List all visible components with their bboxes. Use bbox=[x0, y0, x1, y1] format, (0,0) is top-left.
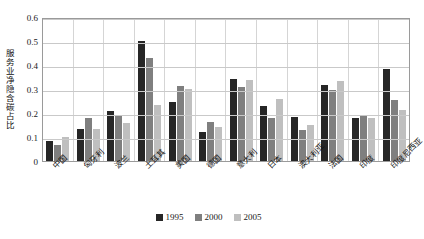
y-tick-label: 0.3 bbox=[27, 86, 38, 95]
legend-label: 1995 bbox=[166, 212, 184, 222]
bar[interactable] bbox=[177, 86, 184, 161]
legend-label: 2000 bbox=[205, 212, 223, 222]
gridline bbox=[43, 19, 409, 20]
gridline bbox=[43, 43, 409, 44]
gridline bbox=[43, 115, 409, 116]
bar[interactable] bbox=[138, 41, 145, 161]
y-tick-label: 0.5 bbox=[27, 38, 38, 47]
plot-area bbox=[42, 18, 410, 162]
gridline bbox=[43, 67, 409, 68]
bar[interactable] bbox=[391, 100, 398, 161]
bar[interactable] bbox=[199, 132, 206, 161]
y-tick-label: 0.2 bbox=[27, 110, 38, 119]
y-axis-tick-labels: 00.10.20.30.40.50.6 bbox=[14, 14, 40, 166]
bar[interactable] bbox=[337, 81, 344, 161]
bar[interactable] bbox=[238, 87, 245, 161]
chart-legend: 199520002005 bbox=[0, 212, 417, 222]
legend-item-1995[interactable]: 1995 bbox=[156, 212, 184, 222]
bar[interactable] bbox=[329, 90, 336, 161]
legend-swatch bbox=[156, 214, 163, 221]
legend-label: 2005 bbox=[244, 212, 262, 222]
gridline bbox=[43, 91, 409, 92]
bar[interactable] bbox=[276, 99, 283, 161]
bar[interactable] bbox=[46, 141, 53, 161]
bar[interactable] bbox=[185, 89, 192, 161]
bar[interactable] bbox=[169, 102, 176, 161]
y-tick-label: 0.6 bbox=[27, 14, 38, 23]
gridline bbox=[43, 139, 409, 140]
bar[interactable] bbox=[77, 129, 84, 161]
legend-item-2000[interactable]: 2000 bbox=[195, 212, 223, 222]
y-tick-label: 0.4 bbox=[27, 62, 38, 71]
bar[interactable] bbox=[107, 111, 114, 161]
y-tick-label: 0 bbox=[34, 158, 39, 167]
bar[interactable] bbox=[146, 58, 153, 161]
x-axis-category-labels: 中国匈牙利波兰土耳其美国德国意大利日本澳大利亚法国印度印度尼西亚 bbox=[42, 163, 410, 209]
legend-swatch bbox=[234, 214, 241, 221]
legend-swatch bbox=[195, 214, 202, 221]
legend-item-2005[interactable]: 2005 bbox=[234, 212, 262, 222]
y-tick-label: 0.1 bbox=[27, 134, 38, 143]
